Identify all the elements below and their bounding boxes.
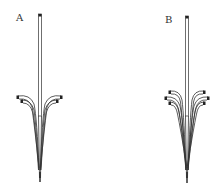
panel-b-branch-left-bottom xyxy=(170,102,187,168)
panel-a-branch-left-inner xyxy=(22,100,39,170)
panel-b-stem xyxy=(186,16,189,116)
panel-a-stem-cap xyxy=(39,14,42,17)
panel-a-branch-right-inner xyxy=(41,100,58,170)
panel-b-figure xyxy=(165,16,210,183)
panel-b-branch-right-bottom xyxy=(188,102,205,168)
panel-b-stem-cap xyxy=(186,16,189,19)
panel-b-branch-right-top xyxy=(188,91,204,170)
diagram-canvas xyxy=(0,0,216,194)
panel-b-branch-left-top xyxy=(170,91,186,170)
panel-a-stem xyxy=(39,14,42,116)
panel-a-figure xyxy=(17,14,63,182)
